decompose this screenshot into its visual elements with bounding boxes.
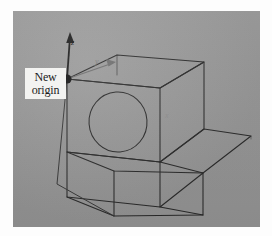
scanned-image-area: z y x New origin <box>13 11 260 227</box>
new-origin-callout: New origin <box>25 68 66 99</box>
origin-base-reference-line <box>57 184 114 216</box>
through-hole-circle <box>87 90 149 154</box>
callout-line-1: New <box>34 71 56 83</box>
step-rear-edge <box>67 152 203 173</box>
bottom-face-edges <box>67 197 203 216</box>
z-axis-line <box>67 37 70 79</box>
y-axis-label: y <box>95 57 99 66</box>
step-top-face <box>160 129 251 173</box>
upper-front-face <box>67 79 160 162</box>
y-axis-line <box>67 63 113 79</box>
wireframe-drawing <box>13 11 260 227</box>
lower-right-face <box>160 173 203 215</box>
z-axis-label: z <box>71 38 74 47</box>
x-axis-label: x <box>165 111 169 120</box>
block-wireframe <box>67 55 251 216</box>
callout-line-2: origin <box>32 84 59 96</box>
figure-page: z y x New origin <box>0 0 272 236</box>
coordinate-axes <box>51 32 116 216</box>
